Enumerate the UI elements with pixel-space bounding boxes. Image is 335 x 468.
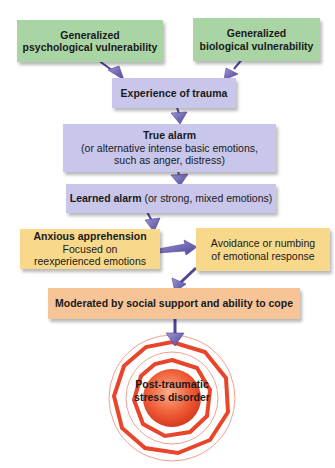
node-line1: Post-traumatic [112, 378, 232, 391]
node-line2: stress disorder [112, 391, 232, 404]
arrow-psych-to-trauma [98, 60, 124, 80]
node-experience-of-trauma: Experience of trauma [112, 78, 236, 108]
node-title: Learned alarm [70, 192, 142, 205]
node-subtitle: biological vulnerability [200, 40, 314, 53]
node-psychological-vulnerability: Generalized psychological vulnerability [17, 20, 163, 62]
node-anxious-apprehension: Anxious apprehension Focused on reexperi… [20, 229, 160, 269]
node-line3: such as anger, distress) [114, 154, 225, 167]
node-moderated-by-support: Moderated by social support and ability … [48, 288, 300, 319]
node-avoidance-numbing: Avoidance or numbing of emotional respon… [196, 228, 330, 271]
node-ptsd: Post-traumatic stress disorder [112, 378, 232, 403]
node-title: Generalized [60, 29, 120, 42]
arrow-bio-to-trauma [224, 58, 243, 80]
node-line2: Focused on [63, 243, 118, 256]
node-title: Moderated by social support and ability … [55, 297, 293, 310]
node-line1: Avoidance or numbing [211, 237, 315, 250]
node-line2: (or alternative intense basic emotions, [81, 142, 258, 155]
arrow-anxious-to-avoidance [158, 240, 197, 255]
node-biological-vulnerability: Generalized biological vulnerability [193, 18, 320, 61]
node-title: Generalized [227, 27, 287, 40]
node-detail: (or strong, mixed emotions) [142, 192, 273, 205]
node-line2: of emotional response [211, 250, 314, 263]
node-title: Experience of trauma [121, 87, 228, 100]
node-line3: reexperienced emotions [34, 255, 146, 268]
node-title: True alarm [143, 129, 196, 142]
arrow-moderated-to-ptsd [166, 318, 184, 346]
node-title: Anxious apprehension [33, 230, 146, 243]
node-true-alarm: True alarm (or alternative intense basic… [63, 124, 276, 172]
node-subtitle: psychological vulnerability [23, 41, 158, 54]
node-learned-alarm: Learned alarm (or strong, mixed emotions… [66, 184, 276, 213]
